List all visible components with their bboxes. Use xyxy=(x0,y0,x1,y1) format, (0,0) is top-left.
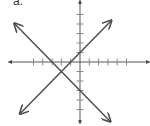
coordinate-plane xyxy=(0,0,150,126)
line-1 xyxy=(20,21,110,113)
line-2 xyxy=(15,24,110,121)
